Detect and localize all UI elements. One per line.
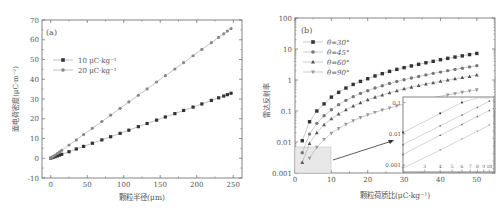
data-point-marker bbox=[388, 82, 391, 85]
y-tick-label: 10 bbox=[30, 135, 39, 143]
data-point-marker bbox=[315, 122, 318, 125]
y-tick-label: 0.001 bbox=[272, 170, 292, 178]
data-point-marker bbox=[210, 41, 213, 44]
inset-x-tick-label: 6 bbox=[461, 164, 464, 169]
inset-y-tick-label: 0.001 bbox=[385, 162, 401, 168]
data-point-marker bbox=[446, 69, 449, 72]
inset-y-tick-label: 0.01 bbox=[389, 131, 401, 137]
data-point-marker bbox=[119, 132, 122, 135]
data-point-marker bbox=[311, 50, 315, 54]
data-point-marker bbox=[330, 108, 333, 111]
data-point-marker bbox=[229, 27, 232, 30]
data-point-marker bbox=[439, 125, 441, 127]
data-point-marker bbox=[388, 70, 391, 73]
data-point-marker bbox=[381, 72, 384, 75]
inset-x-tick-label: 9 bbox=[482, 164, 485, 169]
data-point-marker bbox=[373, 86, 376, 89]
data-point-marker bbox=[119, 107, 122, 110]
data-point-marker bbox=[337, 91, 340, 94]
data-point-marker bbox=[402, 144, 404, 146]
data-point-marker bbox=[366, 77, 369, 80]
data-point-marker bbox=[217, 96, 220, 99]
y-tick-label: 100 bbox=[279, 15, 292, 23]
data-point-marker bbox=[344, 99, 347, 102]
legend-entry-label: θ=60° bbox=[327, 59, 350, 67]
y-tick-label: 50 bbox=[30, 56, 39, 64]
data-point-marker bbox=[351, 95, 354, 98]
data-point-marker bbox=[468, 65, 471, 68]
data-point-marker bbox=[424, 61, 427, 64]
legend-entry-label: 20 μC·kg⁻¹ bbox=[78, 67, 117, 75]
data-point-marker bbox=[402, 66, 405, 69]
x-tick-label: 30 bbox=[400, 176, 409, 184]
data-point-marker bbox=[75, 138, 78, 141]
y-tick-label: 30 bbox=[30, 96, 39, 104]
data-point-marker bbox=[461, 67, 464, 70]
data-point-marker bbox=[173, 67, 176, 70]
data-point-marker bbox=[173, 112, 176, 115]
data-point-marker bbox=[488, 100, 490, 102]
data-point-marker bbox=[137, 125, 140, 128]
data-point-marker bbox=[100, 138, 103, 141]
panel-a-chart: -10010203040506070 050100150200250 (a) 1… bbox=[11, 17, 242, 203]
data-point-marker bbox=[461, 54, 464, 57]
data-point-marker bbox=[200, 48, 203, 51]
x-tick-label: 150 bbox=[154, 181, 167, 189]
data-point-marker bbox=[191, 105, 194, 108]
data-point-marker bbox=[417, 63, 420, 66]
legend-entry-label: θ=30° bbox=[327, 39, 350, 47]
data-point-marker bbox=[475, 64, 478, 67]
data-point-marker bbox=[322, 102, 325, 105]
data-point-marker bbox=[164, 115, 167, 118]
data-point-marker bbox=[402, 78, 405, 81]
data-point-marker bbox=[301, 139, 304, 142]
data-point-marker bbox=[200, 102, 203, 105]
panel-b-y-label: 雷达反射率 bbox=[262, 83, 271, 118]
data-point-marker bbox=[91, 127, 94, 130]
x-tick-label: 20 bbox=[363, 176, 372, 184]
inset-x-tick-label: 5 bbox=[451, 164, 454, 169]
data-point-marker bbox=[322, 114, 325, 117]
data-point-marker bbox=[381, 84, 384, 87]
data-point-marker bbox=[395, 80, 398, 83]
x-tick-label: 100 bbox=[117, 181, 130, 189]
data-point-marker bbox=[155, 119, 158, 122]
data-point-marker bbox=[109, 135, 112, 138]
data-point-marker bbox=[439, 58, 442, 61]
y-tick-label: 0.1 bbox=[281, 108, 292, 116]
data-point-marker bbox=[146, 122, 149, 125]
data-point-marker bbox=[315, 109, 318, 112]
y-tick-label: 40 bbox=[30, 76, 39, 84]
data-point-marker bbox=[402, 132, 404, 134]
data-point-marker bbox=[344, 86, 347, 89]
data-point-marker bbox=[82, 133, 85, 136]
data-point-marker bbox=[222, 94, 225, 97]
data-point-marker bbox=[100, 120, 103, 123]
inset-x-tick-label: 10 bbox=[487, 164, 493, 169]
data-point-marker bbox=[155, 80, 158, 83]
data-point-marker bbox=[191, 54, 194, 57]
legend-entry-label: θ=90° bbox=[327, 69, 350, 77]
legend-entry-label: θ=45° bbox=[327, 49, 350, 57]
x-tick-label: 40 bbox=[436, 176, 445, 184]
data-point-marker bbox=[226, 29, 229, 32]
data-point-marker bbox=[453, 68, 456, 71]
data-point-marker bbox=[308, 132, 311, 135]
data-point-marker bbox=[210, 99, 213, 102]
x-tick-label: 50 bbox=[83, 181, 92, 189]
data-point-marker bbox=[330, 95, 333, 98]
data-point-marker bbox=[475, 52, 478, 55]
data-point-marker bbox=[137, 94, 140, 97]
data-point-marker bbox=[477, 106, 479, 108]
data-point-marker bbox=[301, 151, 304, 154]
data-point-marker bbox=[359, 80, 362, 83]
inset-frame bbox=[403, 97, 494, 172]
y-tick-label: 10 bbox=[283, 46, 292, 54]
figure: -10010203040506070 050100150200250 (a) 1… bbox=[0, 0, 503, 213]
data-point-marker bbox=[446, 57, 449, 60]
data-point-marker bbox=[75, 147, 78, 150]
data-point-marker bbox=[67, 150, 70, 153]
data-point-marker bbox=[461, 114, 463, 116]
data-point-marker bbox=[311, 40, 315, 44]
x-tick-label: 10 bbox=[327, 176, 336, 184]
